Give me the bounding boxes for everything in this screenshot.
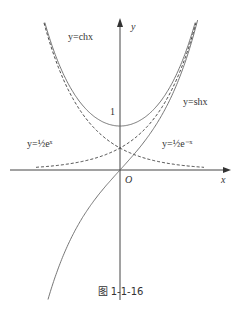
x-axis-label: x	[221, 174, 225, 185]
x-axis-arrow-icon	[223, 167, 231, 173]
origin-label: O	[125, 174, 132, 185]
curve-shx	[48, 20, 198, 299]
label-shx: y=shx	[183, 96, 208, 107]
label-half-ex: y=½eˣ	[27, 138, 52, 149]
label-chx: y=chx	[68, 31, 93, 42]
y-axis-label: y	[131, 21, 135, 32]
tick-one-label: 1	[110, 106, 115, 117]
label-half-emx: y=½e⁻ˣ	[162, 138, 192, 149]
figure-caption: 图 1-1-16	[0, 283, 241, 298]
y-axis-arrow-icon	[117, 18, 123, 27]
hyperbolic-functions-plot	[0, 0, 241, 309]
